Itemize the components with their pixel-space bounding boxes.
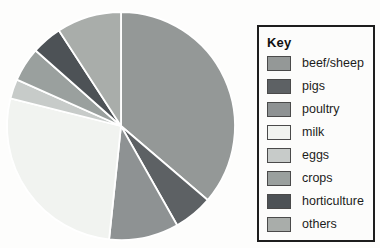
- legend-label-milk: milk: [302, 125, 324, 140]
- legend-item-crops: crops: [267, 171, 373, 186]
- legend-title: Key: [267, 35, 373, 50]
- legend-item-milk: milk: [267, 125, 373, 140]
- legend-item-horticulture: horticulture: [267, 194, 373, 209]
- legend-swatch-beef-sheep: [267, 56, 291, 71]
- legend-label-others: others: [302, 217, 337, 232]
- legend-item-pigs: pigs: [267, 79, 373, 94]
- legend-swatch-horticulture: [267, 194, 291, 209]
- legend-label-crops: crops: [302, 171, 333, 186]
- legend-swatch-milk: [267, 125, 291, 140]
- legend-item-poultry: poultry: [267, 102, 373, 117]
- legend-swatch-others: [267, 217, 291, 232]
- legend-item-beef-sheep: beef/sheep: [267, 56, 373, 71]
- legend-swatch-crops: [267, 171, 291, 186]
- legend-label-pigs: pigs: [302, 79, 325, 94]
- legend-label-poultry: poultry: [302, 102, 340, 117]
- legend-label-eggs: eggs: [302, 148, 329, 163]
- legend-label-beef-sheep: beef/sheep: [302, 56, 364, 71]
- legend-swatch-poultry: [267, 102, 291, 117]
- legend-box: Key beef/sheep pigs poultry milk eggs cr…: [257, 25, 375, 242]
- figure: Key beef/sheep pigs poultry milk eggs cr…: [0, 0, 380, 248]
- legend-swatch-eggs: [267, 148, 291, 163]
- legend-swatch-pigs: [267, 79, 291, 94]
- legend-item-eggs: eggs: [267, 148, 373, 163]
- legend-item-others: others: [267, 217, 373, 232]
- legend-label-horticulture: horticulture: [302, 194, 364, 209]
